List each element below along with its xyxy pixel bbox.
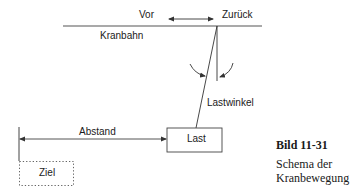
figure-caption-line1: Schema der	[276, 158, 332, 172]
label-target: Ziel	[39, 168, 55, 178]
figure-number: Bild 11-31	[276, 139, 328, 153]
figure-caption-line2: Kranbewegung	[276, 172, 349, 186]
label-forward: Vor	[139, 10, 154, 20]
label-crane-track: Kranbahn	[100, 31, 143, 41]
rope-line	[196, 26, 217, 128]
angle-arc-right	[220, 63, 233, 77]
label-distance: Abstand	[79, 127, 116, 137]
label-load: Last	[187, 134, 206, 144]
label-backward: Zurück	[222, 10, 253, 20]
label-load-angle: Lastwinkel	[207, 98, 254, 108]
angle-arc-left	[190, 64, 205, 76]
